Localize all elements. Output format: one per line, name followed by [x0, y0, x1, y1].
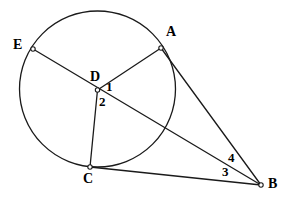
angle-label-2: 2	[99, 95, 106, 108]
point-label-b: B	[268, 177, 277, 191]
vertex-point-c	[88, 165, 92, 169]
vertex-point-b	[259, 183, 263, 187]
vertex-point-a	[159, 46, 163, 50]
geometry-figure: AEDCB1234	[0, 0, 284, 202]
angle-label-4: 4	[228, 151, 235, 164]
point-label-c: C	[83, 172, 93, 186]
angle-label-1: 1	[106, 80, 113, 93]
point-label-a: A	[166, 25, 176, 39]
point-label-d: D	[90, 70, 100, 84]
point-label-e: E	[13, 38, 22, 52]
angle-label-3: 3	[222, 165, 229, 178]
segment-DC	[90, 90, 98, 167]
vertex-point-e	[31, 47, 35, 51]
vertex-point-d	[95, 88, 99, 92]
segment-AB	[161, 48, 261, 185]
geometry-canvas	[0, 0, 284, 202]
